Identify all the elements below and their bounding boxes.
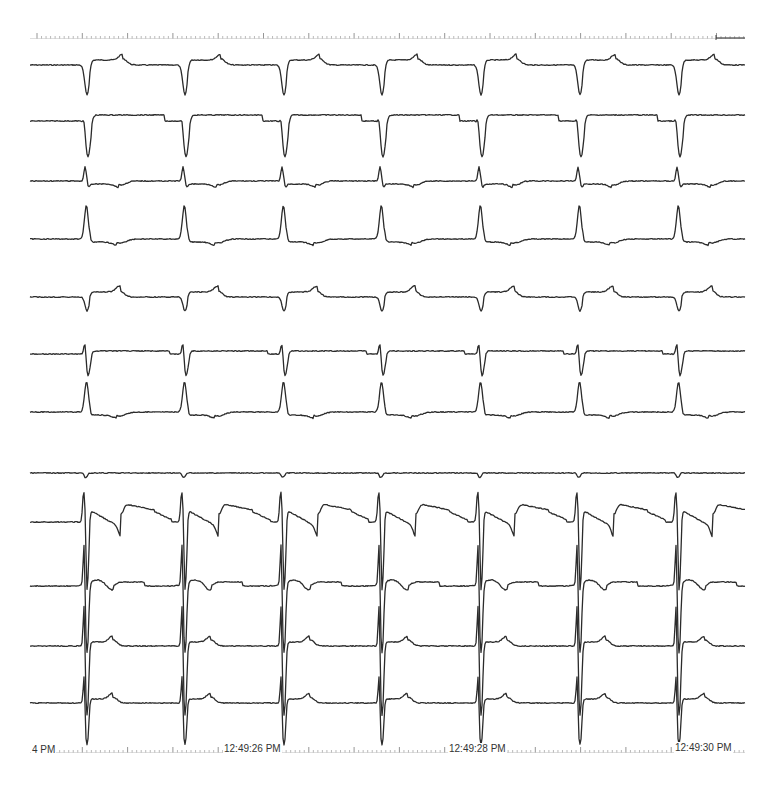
top-time-ruler	[30, 33, 745, 39]
time-label-12-49-26: 12:49:26 PM	[223, 743, 282, 754]
time-label-12-49-30: 12:49:30 PM	[674, 742, 733, 753]
ecg-trace-channel-10	[30, 545, 745, 653]
ecg-trace-channel-7	[30, 383, 745, 419]
ecg-trace-channel-6	[30, 345, 745, 376]
ecg-trace-channel-1	[30, 54, 745, 95]
ecg-trace-channel-12	[30, 677, 745, 745]
bottom-time-ruler	[30, 747, 745, 753]
ecg-trace-channel-9	[30, 492, 745, 590]
time-label-12-49-28: 12:49:28 PM	[448, 743, 507, 754]
ecg-trace-channel-2	[30, 115, 745, 158]
ecg-trace-channel-4	[30, 206, 745, 246]
ecg-trace-channel-5	[30, 286, 745, 312]
scale-bar	[716, 35, 745, 40]
ecg-strip-chart	[0, 0, 777, 788]
ecg-traces	[30, 54, 745, 745]
ecg-trace-channel-3	[30, 167, 745, 188]
time-label-start: 4 PM	[31, 744, 56, 755]
ecg-trace-channel-8	[30, 473, 745, 478]
